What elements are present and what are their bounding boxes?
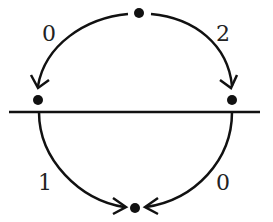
node-top bbox=[134, 8, 144, 18]
circle-diagram: 0 2 1 0 bbox=[0, 0, 273, 222]
label-top-right: 2 bbox=[216, 21, 230, 46]
node-left bbox=[33, 95, 43, 105]
node-right bbox=[227, 95, 237, 105]
label-bottom-right: 0 bbox=[216, 170, 230, 195]
arrowhead-right-icon bbox=[220, 75, 237, 88]
label-bottom-left: 1 bbox=[38, 170, 52, 195]
label-top-left: 0 bbox=[42, 21, 56, 46]
node-bottom bbox=[130, 203, 140, 213]
